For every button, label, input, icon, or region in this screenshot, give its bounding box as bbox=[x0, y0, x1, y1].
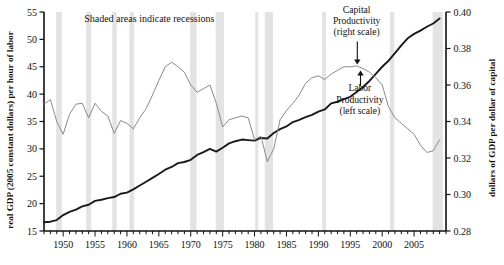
x-tick-label: 1955 bbox=[85, 239, 105, 250]
y-tick-label-right: 0.40 bbox=[454, 7, 472, 18]
x-tick-label: 1970 bbox=[181, 239, 201, 250]
y-tick-label-left: 30 bbox=[27, 143, 37, 154]
y-tick-label-right: 0.32 bbox=[454, 153, 472, 164]
right-axis-title: dollars of GDP per dollar of capital bbox=[487, 59, 497, 197]
shaded-areas-note: Shaded areas indicate recessions bbox=[84, 13, 214, 24]
x-tick-label: 1995 bbox=[340, 239, 360, 250]
y-tick-label-left: 55 bbox=[27, 7, 37, 18]
recession-band bbox=[190, 12, 196, 231]
labor-label-line3: (left scale) bbox=[339, 105, 380, 117]
y-tick-label-left: 35 bbox=[27, 116, 37, 127]
y-tick-label-left: 25 bbox=[27, 171, 37, 182]
left-axis-title: real GDP (2005 constant dollars) per hou… bbox=[5, 31, 15, 229]
recession-band bbox=[216, 12, 224, 231]
x-tick-label: 1990 bbox=[308, 239, 328, 250]
y-tick-label-right: 0.38 bbox=[454, 43, 472, 54]
y-tick-label-left: 45 bbox=[27, 61, 37, 72]
axes-group bbox=[40, 12, 451, 237]
recession-band bbox=[390, 12, 394, 231]
capital-label-line1: Capital bbox=[343, 4, 371, 15]
capital-label-line2: Productivity bbox=[333, 15, 381, 26]
recession-band bbox=[255, 12, 258, 231]
data-series-group bbox=[44, 19, 440, 223]
x-tick-label: 1975 bbox=[213, 239, 233, 250]
y-tick-label-right: 0.34 bbox=[454, 116, 472, 127]
y-tick-label-right: 0.30 bbox=[454, 189, 472, 200]
recession-band bbox=[130, 12, 134, 231]
productivity-chart-figure: 1950195519601965197019751980198519901995… bbox=[0, 0, 504, 265]
recession-band bbox=[433, 12, 443, 231]
y-tick-label-right: 0.28 bbox=[454, 226, 472, 237]
capital-annotation-arrow-head bbox=[354, 60, 360, 65]
x-tick-label: 1985 bbox=[276, 239, 296, 250]
capital-label-line3: (right scale) bbox=[334, 26, 380, 38]
y-tick-label-left: 15 bbox=[27, 226, 37, 237]
y-tick-label-left: 40 bbox=[27, 89, 37, 100]
x-tick-label: 1980 bbox=[245, 239, 265, 250]
recession-band bbox=[265, 12, 273, 231]
recession-band bbox=[86, 12, 91, 231]
x-tick-label: 2005 bbox=[404, 239, 424, 250]
labor-annotation-arrow-head bbox=[357, 71, 363, 76]
labor-label-line2: Productivity bbox=[336, 94, 384, 105]
recession-band bbox=[322, 12, 326, 231]
y-tick-label-left: 20 bbox=[27, 198, 37, 209]
chart-canvas: 1950195519601965197019751980198519901995… bbox=[0, 0, 504, 265]
labor-productivity-line bbox=[44, 19, 440, 223]
x-tick-label: 1950 bbox=[53, 239, 73, 250]
annotations-group: Shaded areas indicate recessionsCapitalP… bbox=[84, 4, 384, 117]
y-tick-label-left: 50 bbox=[27, 34, 37, 45]
x-tick-label: 1960 bbox=[117, 239, 137, 250]
capital-productivity-line bbox=[44, 62, 440, 161]
x-tick-label: 2000 bbox=[372, 239, 392, 250]
x-tick-label: 1965 bbox=[149, 239, 169, 250]
y-tick-label-right: 0.36 bbox=[454, 80, 472, 91]
